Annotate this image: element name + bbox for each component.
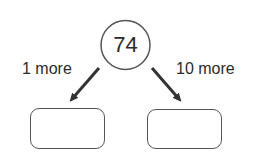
center-number: 74 <box>101 34 150 56</box>
right-label: 10 more <box>176 61 235 77</box>
left-arrow <box>72 68 99 99</box>
left-answer-box[interactable] <box>30 108 105 149</box>
right-arrow <box>152 68 179 99</box>
left-label: 1 more <box>22 61 72 77</box>
right-answer-box[interactable] <box>147 109 222 149</box>
